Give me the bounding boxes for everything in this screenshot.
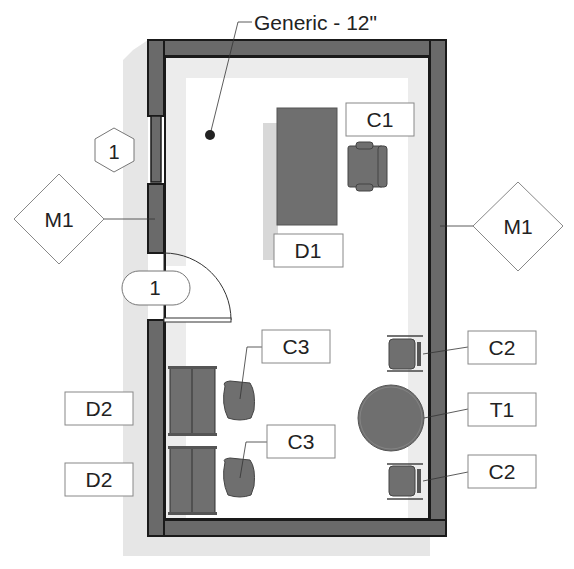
material-tag-right-label: M1 <box>503 215 532 238</box>
table-t1 <box>358 385 424 451</box>
material-tag-left-label: M1 <box>44 208 73 231</box>
wall-tag-label: Generic - 12" <box>254 11 377 34</box>
door-tag: 1 <box>122 271 190 305</box>
svg-text:C3: C3 <box>288 430 315 453</box>
tag-d1: D1 <box>274 234 343 267</box>
floor-plan: Generic - 12" 1 1 M1 M1 C1 D1 C3 C3 <box>0 0 574 569</box>
svg-text:D2: D2 <box>86 397 113 420</box>
svg-text:C3: C3 <box>283 335 310 358</box>
tag-d2-upper: D2 <box>65 392 133 425</box>
window-tag-label: 1 <box>108 141 119 163</box>
tag-d2-lower: D2 <box>65 463 133 496</box>
svg-text:D2: D2 <box>86 468 113 491</box>
door-tag-label: 1 <box>149 277 160 299</box>
svg-text:C1: C1 <box>367 108 394 131</box>
svg-text:T1: T1 <box>490 398 515 421</box>
desk-d2-lower <box>168 446 217 515</box>
svg-text:D1: D1 <box>295 239 322 262</box>
desk-d2-upper <box>168 366 217 436</box>
chair-c3-upper <box>224 381 255 420</box>
window <box>151 116 161 182</box>
tag-c1: C1 <box>346 103 414 136</box>
material-tag-right: M1 <box>440 182 563 271</box>
tag-c3-upper: C3 <box>240 330 330 399</box>
chair-c3-lower <box>224 458 255 497</box>
svg-text:C2: C2 <box>489 336 516 359</box>
chair-c1 <box>348 142 387 191</box>
svg-text:C2: C2 <box>489 460 516 483</box>
